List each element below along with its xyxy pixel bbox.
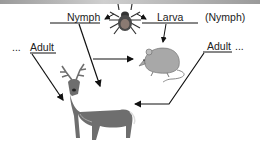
larva-to-mouse-arrow (163, 24, 166, 42)
deer-icon (60, 64, 135, 140)
ellipsis-right: ... (235, 40, 244, 52)
nymph-to-deer-arrow (79, 24, 100, 86)
nymph-label: Nymph (67, 11, 100, 23)
adult-left-label: Adult (30, 41, 54, 53)
adult-right-label: Adult (207, 40, 231, 52)
larva-label: Larva (157, 11, 183, 23)
tick-icon (109, 4, 141, 34)
nymph-paren-label: (Nymph) (205, 11, 245, 23)
tick-to-larva-arrow (137, 14, 146, 19)
ellipsis-left: ... (12, 41, 21, 53)
adult-left-to-deer-arrow (32, 54, 63, 100)
mouse-icon (139, 48, 184, 82)
tick-to-nymph-arrow (105, 14, 114, 19)
